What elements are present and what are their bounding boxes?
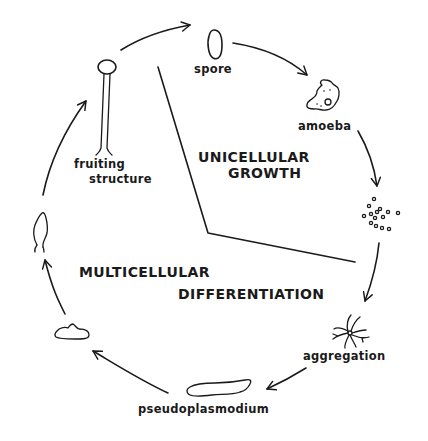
arrow-spore-to-amoeba bbox=[233, 43, 307, 75]
aggregation-icon bbox=[333, 315, 369, 348]
pseudoplasmodium-icon bbox=[187, 380, 251, 397]
aggregation-label: aggregation bbox=[303, 351, 386, 363]
arrow-rising-to-fruiting bbox=[43, 101, 86, 195]
arrow-amoeba-to-cluster bbox=[358, 131, 377, 186]
multicellular-label-line1: MULTICELLULAR bbox=[79, 265, 210, 279]
fruiting-label-line2: structure bbox=[89, 174, 152, 186]
life-cycle-diagram: spore amoeba aggregation pseudoplasmodiu… bbox=[0, 0, 428, 441]
fruiting-structure-icon bbox=[96, 60, 116, 155]
amoeba-cluster-icon bbox=[362, 197, 399, 230]
unicellular-label-line1: UNICELLULAR bbox=[198, 150, 310, 164]
pseudoplasmodium-label: pseudoplasmodium bbox=[138, 404, 269, 416]
amoeba-icon bbox=[307, 80, 339, 110]
unicellular-label-line2: GROWTH bbox=[228, 166, 301, 180]
multicellular-label-line2: DIFFERENTIATION bbox=[178, 287, 324, 301]
culmination-rising-icon bbox=[34, 213, 48, 252]
spore-icon bbox=[208, 30, 222, 59]
spore-label: spore bbox=[194, 64, 232, 76]
amoeba-label: amoeba bbox=[298, 121, 351, 133]
arrow-cluster-to-aggregation bbox=[365, 243, 379, 301]
arrow-fruiting-to-spore bbox=[121, 25, 190, 50]
fruiting-label-line1: fruiting bbox=[74, 159, 125, 171]
arrow-aggregation-to-pseudoplasmodium bbox=[267, 368, 306, 389]
culmination-mound-icon bbox=[55, 324, 89, 339]
arrow-mound-to-rising bbox=[45, 260, 65, 314]
arrow-pseudoplasmodium-to-mound bbox=[93, 351, 168, 393]
